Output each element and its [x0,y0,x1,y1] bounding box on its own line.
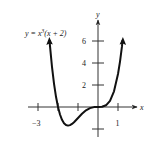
x-tick-label-neg3: −3 [32,119,41,128]
y-tick-label-4: 4 [82,59,86,68]
function-plot: y = x3(x + 2) y x −3 1 6 4 2 [0,0,154,154]
equation-label: y = x3(x + 2) [24,28,67,38]
y-tick-label-2: 2 [82,81,86,90]
x-tick-label-1: 1 [116,119,120,128]
y-tick-label-6: 6 [82,37,86,46]
function-curve [50,40,123,126]
y-axis-label: y [95,10,100,19]
x-axis-label: x [139,103,144,112]
